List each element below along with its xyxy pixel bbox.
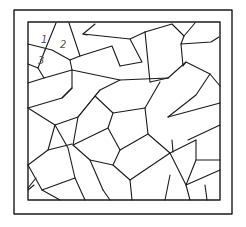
crack-line [44,60,72,78]
crack-line [170,153,190,200]
crack-line [83,32,145,39]
crack-network [28,23,220,200]
crack-line [113,150,132,200]
crack-line [75,178,85,200]
crack-line [165,175,170,200]
crack-line [186,140,220,185]
crack-line [168,103,220,117]
crack-line [103,190,110,200]
crack-line [168,62,186,78]
crack-line [145,108,170,153]
crack-line [108,113,120,150]
crack-line [55,125,75,178]
crack-line [205,185,207,200]
cell-label-1: 1 [41,34,47,45]
crack-line [145,24,219,44]
crack-line [69,23,80,60]
crack-pattern-svg: 1 2 3 [0,0,246,227]
crack-line [95,80,145,113]
crack-line [28,70,72,108]
crack-line [130,140,196,180]
cell-label-3: 3 [38,55,44,66]
crack-line [62,88,72,98]
crack-line [28,125,55,165]
crack-line [172,140,173,152]
crack-line [28,165,75,190]
crack-line [181,44,220,86]
crack-line [73,117,103,190]
crack-line [145,82,160,108]
crack-line [145,32,150,82]
crack-pattern-figure: 1 2 3 [0,0,246,227]
crack-line [184,23,195,36]
crack-line [73,128,108,145]
crack-line [42,190,60,200]
crack-line [168,74,210,117]
crack-line [188,125,220,140]
crack-line [90,160,113,165]
crack-line [120,39,142,66]
crack-line [83,24,95,35]
crack-line [72,70,168,80]
crack-line [28,68,44,83]
crack-line [80,46,120,66]
crack-line [120,134,148,150]
crack-line [78,96,95,117]
cell-label-2: 2 [60,39,66,50]
